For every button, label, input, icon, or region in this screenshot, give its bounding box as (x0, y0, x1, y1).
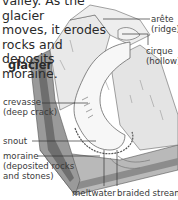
label-moraine: moraine (deposited rocks and stones) (3, 151, 74, 181)
diagram-title: glacier (8, 58, 52, 72)
label-cirque: cirque (hollow) (146, 46, 178, 66)
intro-line: valley. As the glacier (2, 0, 122, 23)
label-braided-stream: braided stream (117, 188, 178, 198)
label-snout: snout (3, 136, 27, 146)
label-meltwater: meltwater (72, 188, 116, 198)
intro-line: rocks and (2, 38, 122, 53)
label-arete: arête (ridge) (151, 14, 178, 34)
intro-line: moves, it erodes (2, 23, 122, 38)
label-crevasse: crevasse (deep crack) (3, 97, 57, 117)
